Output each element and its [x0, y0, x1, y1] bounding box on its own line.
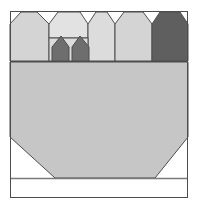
house-2 [49, 12, 88, 38]
house-5 [152, 12, 188, 61]
house-1 [10, 12, 49, 61]
house-3 [88, 12, 115, 61]
geometric-figure [0, 0, 199, 209]
figure-canvas [0, 0, 199, 209]
body-trapezoid [10, 62, 188, 178]
house-4 [115, 12, 152, 61]
